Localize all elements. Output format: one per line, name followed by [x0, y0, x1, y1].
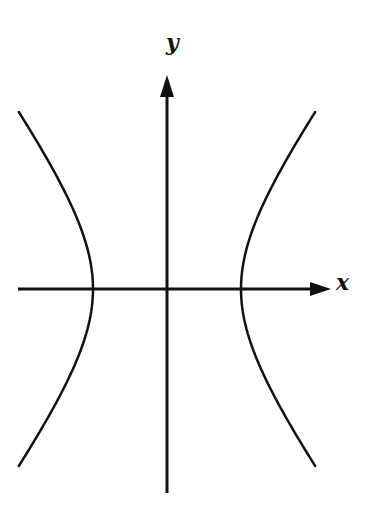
y-axis-label: y — [165, 29, 181, 55]
x-axis-arrow-icon — [310, 282, 331, 296]
y-axis-arrow-icon — [160, 75, 174, 97]
x-axis-label: x — [335, 269, 350, 295]
hyperbola-diagram: y x — [0, 0, 368, 511]
